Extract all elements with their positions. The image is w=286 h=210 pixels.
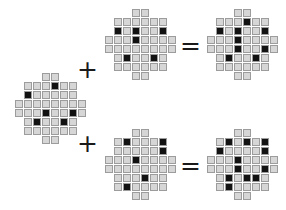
grid-cell bbox=[233, 128, 242, 137]
grid-cell bbox=[224, 173, 233, 182]
grid-cell bbox=[269, 173, 278, 182]
grid-top-right-result bbox=[206, 8, 278, 80]
grid-cell bbox=[122, 191, 131, 200]
grid-cell bbox=[113, 146, 122, 155]
grid-cell bbox=[215, 173, 224, 182]
grid-cell bbox=[224, 137, 233, 146]
grid-cell bbox=[215, 128, 224, 137]
grid-cell bbox=[14, 72, 23, 81]
grid-cell bbox=[206, 182, 215, 191]
grid-cell bbox=[14, 81, 23, 90]
grid-cell bbox=[167, 8, 176, 17]
grid-cell bbox=[131, 173, 140, 182]
grid-cell bbox=[140, 173, 149, 182]
grid-cell bbox=[50, 90, 59, 99]
grid-cell bbox=[233, 62, 242, 71]
grid-cell bbox=[260, 164, 269, 173]
grid-cell bbox=[140, 191, 149, 200]
grid-cell bbox=[167, 155, 176, 164]
grid-cell bbox=[206, 26, 215, 35]
grid-cell bbox=[41, 99, 50, 108]
grid-cell bbox=[77, 99, 86, 108]
grid-cell bbox=[215, 62, 224, 71]
grid-cell bbox=[242, 35, 251, 44]
grid-cell bbox=[23, 72, 32, 81]
grid-cell bbox=[140, 164, 149, 173]
grid-cell bbox=[131, 164, 140, 173]
grid-cell bbox=[251, 17, 260, 26]
grid-cell bbox=[269, 26, 278, 35]
grid-cell bbox=[206, 146, 215, 155]
grid-cell bbox=[149, 71, 158, 80]
grid-cell bbox=[104, 173, 113, 182]
grid-cell bbox=[233, 182, 242, 191]
grid-cell bbox=[131, 182, 140, 191]
grid-cell bbox=[224, 191, 233, 200]
grid-cell bbox=[149, 173, 158, 182]
equals-operator-bottom: = bbox=[180, 153, 201, 178]
grid-cell bbox=[224, 71, 233, 80]
grid-cell bbox=[224, 44, 233, 53]
grid-cell bbox=[269, 137, 278, 146]
grid-cell bbox=[68, 126, 77, 135]
grid-cell bbox=[113, 8, 122, 17]
grid-cell bbox=[251, 146, 260, 155]
grid-cell bbox=[242, 128, 251, 137]
grid-cell bbox=[149, 26, 158, 35]
grid-cell bbox=[113, 17, 122, 26]
grid-cell bbox=[149, 191, 158, 200]
grid-cell bbox=[251, 128, 260, 137]
equals-operator-top: = bbox=[180, 33, 201, 58]
grid-cell bbox=[122, 35, 131, 44]
grid-cell bbox=[224, 26, 233, 35]
grid-cell bbox=[215, 8, 224, 17]
grid-cell bbox=[206, 137, 215, 146]
grid-cell bbox=[215, 71, 224, 80]
grid-cell bbox=[167, 146, 176, 155]
grid-cell bbox=[104, 71, 113, 80]
grid-cell bbox=[158, 44, 167, 53]
grid-cell bbox=[242, 182, 251, 191]
grid-cell bbox=[140, 182, 149, 191]
grid-cell bbox=[206, 191, 215, 200]
grid-cell bbox=[32, 90, 41, 99]
grid-cell bbox=[158, 26, 167, 35]
grid-cell bbox=[242, 146, 251, 155]
grid-cell bbox=[122, 17, 131, 26]
grid-cell bbox=[158, 53, 167, 62]
grid-cell bbox=[32, 99, 41, 108]
grid-bottom-right-result bbox=[206, 128, 278, 200]
grid-cell bbox=[206, 155, 215, 164]
grid-cell bbox=[233, 191, 242, 200]
grid-cell bbox=[149, 53, 158, 62]
grid-cell bbox=[215, 164, 224, 173]
grid-cell bbox=[206, 44, 215, 53]
grid-cell bbox=[260, 146, 269, 155]
grid-cell bbox=[50, 81, 59, 90]
grid-cell bbox=[77, 117, 86, 126]
grid-cell bbox=[104, 62, 113, 71]
grid-cell bbox=[113, 137, 122, 146]
grid-cell bbox=[269, 146, 278, 155]
grid-cell bbox=[32, 72, 41, 81]
grid-cell bbox=[41, 108, 50, 117]
grid-cell bbox=[131, 44, 140, 53]
grid-cell bbox=[32, 117, 41, 126]
grid-cell bbox=[158, 137, 167, 146]
grid-cell bbox=[104, 8, 113, 17]
grid-cell bbox=[269, 128, 278, 137]
grid-cell bbox=[113, 62, 122, 71]
grid-cell bbox=[233, 137, 242, 146]
grid-cell bbox=[251, 173, 260, 182]
grid-cell bbox=[158, 71, 167, 80]
grid-cell bbox=[41, 90, 50, 99]
grid-shared-left bbox=[14, 72, 86, 144]
grid-cell bbox=[23, 99, 32, 108]
grid-cell bbox=[215, 182, 224, 191]
grid-cell bbox=[233, 35, 242, 44]
grid-cell bbox=[158, 62, 167, 71]
grid-cell bbox=[23, 117, 32, 126]
grid-cell bbox=[167, 62, 176, 71]
grid-cell bbox=[206, 53, 215, 62]
grid-cell bbox=[59, 81, 68, 90]
